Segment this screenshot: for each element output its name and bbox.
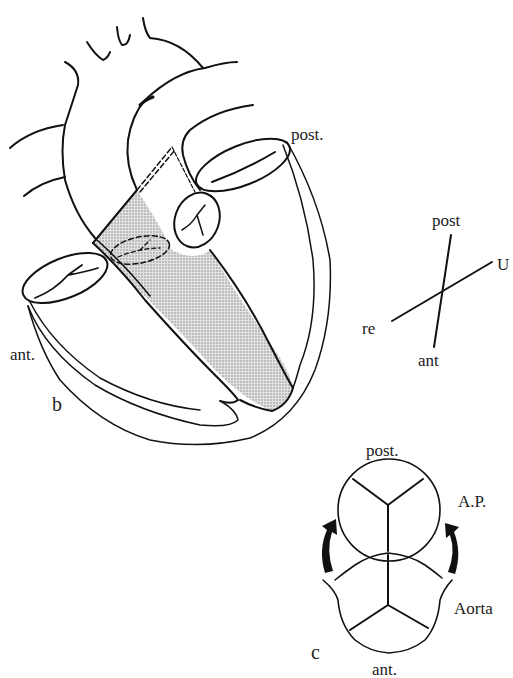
valve-label-ap: A.P. — [458, 492, 486, 511]
dashed-tunnel-top — [137, 147, 172, 190]
anterior-valve-leaflets — [35, 265, 98, 298]
valve-label-aorta: Aorta — [454, 599, 493, 618]
axis-label-ant: ant — [418, 351, 439, 370]
head-vessel-1 — [87, 42, 110, 60]
panel-label-b: b — [52, 393, 62, 415]
figure-b-heart: post. ant. b — [10, 18, 330, 445]
head-vessel-2 — [117, 27, 130, 45]
head-vessel-3 — [143, 18, 203, 68]
figure-c-valves: post. A.P. Aorta c ant. — [311, 441, 493, 678]
orientation-axes: post U re ant — [362, 211, 509, 370]
aortic-valve-leaflets — [350, 555, 428, 630]
valve-label-post: post. — [366, 441, 399, 460]
label-ant: ant. — [10, 345, 35, 364]
posterior-valve-slit — [212, 152, 275, 182]
curved-arrow-left — [322, 519, 337, 573]
diagram-canvas: post. ant. b post U re ant post. A.P. Ao… — [0, 0, 513, 678]
panel-label-c: c — [311, 641, 320, 663]
pulmonary-trunk-outline — [182, 105, 253, 190]
branch-left-lower — [24, 177, 65, 196]
branch-left-upper — [10, 125, 63, 148]
axis-label-u: U — [497, 255, 509, 274]
aortic-arch-inner — [127, 62, 237, 190]
dashed-tunnel-top-2 — [140, 150, 175, 192]
left-ventricle-inner — [283, 145, 314, 388]
valve-label-ant: ant. — [372, 660, 397, 678]
posterior-valve-ring — [189, 128, 297, 203]
axis-re-u — [392, 262, 492, 321]
label-post: post. — [291, 125, 324, 144]
axis-label-post: post — [432, 211, 461, 230]
curved-arrow-right — [445, 523, 459, 574]
aortic-valve-leaflets — [182, 205, 205, 235]
stippled-septum — [93, 190, 293, 410]
axis-label-re: re — [362, 319, 375, 338]
aortic-valve-ring — [167, 186, 227, 254]
aortic-arch-outline — [63, 62, 96, 238]
pulmonary-valve-leaflets — [353, 479, 423, 551]
